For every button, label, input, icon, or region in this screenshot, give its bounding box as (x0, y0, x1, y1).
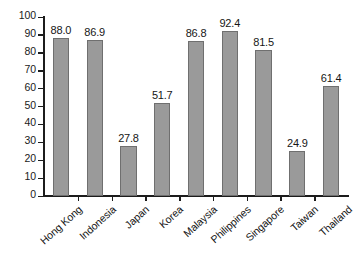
bar (188, 41, 204, 196)
bar (323, 86, 339, 196)
plot-area: 88.086.927.851.786.892.481.524.961.4 (44, 17, 348, 196)
bar (289, 151, 305, 196)
bar (53, 38, 69, 196)
bar-value-label: 86.9 (78, 26, 112, 38)
bar-group: 24.9 (280, 17, 314, 196)
x-axis-tick-mark (145, 196, 146, 201)
y-axis-tick-label: 80 (25, 46, 36, 57)
bar-value-label: 92.4 (213, 17, 247, 29)
bar-group: 81.5 (247, 17, 281, 196)
bar-value-label: 86.8 (179, 27, 213, 39)
bar-value-label: 61.4 (314, 72, 348, 84)
bar (120, 146, 136, 196)
bar-value-label: 81.5 (247, 36, 281, 48)
y-axis-tick-mark (38, 52, 43, 53)
bar-group: 88.0 (44, 17, 78, 196)
x-axis-tick-mark (314, 196, 315, 201)
bar-value-label: 51.7 (145, 89, 179, 101)
x-axis-tick-mark (213, 196, 214, 201)
bar (222, 31, 238, 196)
bar (87, 40, 103, 196)
y-axis-tick-label: 30 (25, 135, 36, 146)
x-axis-tick-mark (112, 196, 113, 201)
y-axis-tick-label: 100 (19, 10, 36, 21)
y-axis-tick-mark (38, 160, 43, 161)
y-axis-tick-label: 10 (25, 171, 36, 182)
bar-chart: 0102030405060708090100 88.086.927.851.78… (0, 0, 359, 253)
y-axis-tick-label: 90 (25, 28, 36, 39)
x-axis-tick-mark (78, 196, 79, 201)
y-axis-tick-label: 0 (30, 189, 36, 200)
bar-value-label: 24.9 (280, 137, 314, 149)
x-axis-tick-mark (247, 196, 248, 201)
y-axis-tick-mark (38, 88, 43, 89)
bar-group: 61.4 (314, 17, 348, 196)
bar (154, 103, 170, 196)
x-axis-tick-mark (280, 196, 281, 201)
bar-value-label: 27.8 (112, 132, 146, 144)
y-axis-tick-label: 60 (25, 82, 36, 93)
bar-group: 27.8 (112, 17, 146, 196)
bar (255, 50, 271, 196)
y-axis-tick-mark (38, 106, 43, 107)
y-axis-tick-mark (38, 124, 43, 125)
bar-group: 92.4 (213, 17, 247, 196)
bar-group: 86.9 (78, 17, 112, 196)
y-axis-tick-label: 20 (25, 153, 36, 164)
y-axis-tick-label: 50 (25, 100, 36, 111)
y-axis-tick-mark (38, 34, 43, 35)
y-axis-tick-mark (38, 196, 43, 197)
y-axis-tick-mark (38, 70, 43, 71)
bar-group: 51.7 (145, 17, 179, 196)
y-axis-tick-mark (38, 17, 43, 18)
bar-group: 86.8 (179, 17, 213, 196)
y-axis-tick-mark (38, 178, 43, 179)
x-axis-tick-mark (179, 196, 180, 201)
bar-value-label: 88.0 (44, 24, 78, 36)
y-axis-tick-label: 70 (25, 64, 36, 75)
y-axis-tick-mark (38, 142, 43, 143)
y-axis-tick-label: 40 (25, 117, 36, 128)
